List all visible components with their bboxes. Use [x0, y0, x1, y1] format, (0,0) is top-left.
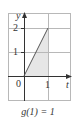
chart-caption: g(1) = 1	[0, 106, 76, 117]
y-axis-label: y	[16, 11, 20, 21]
y-tick-label-1: 1	[13, 47, 18, 57]
y-axis-arrow-icon	[22, 12, 27, 18]
x-tick-label-1: 1	[45, 80, 50, 90]
y-tick-label-2: 2	[13, 23, 18, 33]
plot-area	[0, 0, 76, 104]
tick-marks	[21, 29, 24, 53]
x-tick-label-0: 0	[16, 79, 21, 89]
x-axis-label: t	[66, 80, 69, 90]
